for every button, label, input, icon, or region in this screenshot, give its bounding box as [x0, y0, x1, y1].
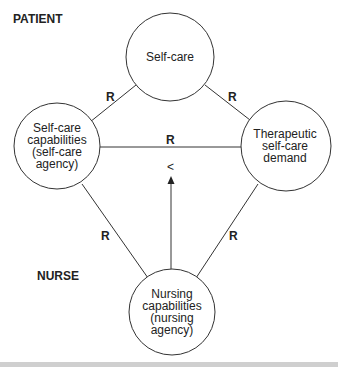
- node-self-care-text: Self-care: [146, 50, 194, 64]
- edge-demand-nursing: [196, 184, 258, 278]
- bottom-divider: [0, 362, 338, 367]
- relation-label-middle: R: [166, 133, 175, 147]
- arrow-symbol-label: <: [167, 160, 174, 174]
- relation-label-bottom-right: R: [229, 229, 238, 243]
- edge-capabilities-nursing: [82, 184, 148, 278]
- nurse-label: NURSE: [37, 269, 79, 283]
- relation-label-bottom-left: R: [101, 229, 110, 243]
- node-demand-line-3: demand: [263, 151, 306, 165]
- node-capabilities-line-4: agency): [36, 157, 79, 171]
- arrow-head-icon: [168, 176, 175, 184]
- node-nursing-line-4: agency): [151, 323, 194, 337]
- patient-label: PATIENT: [13, 12, 63, 26]
- relation-label-top-left: R: [106, 90, 115, 104]
- orem-diagram: PATIENT NURSE R R R R R < Self-care Self…: [0, 0, 338, 367]
- relation-label-top-right: R: [228, 90, 237, 104]
